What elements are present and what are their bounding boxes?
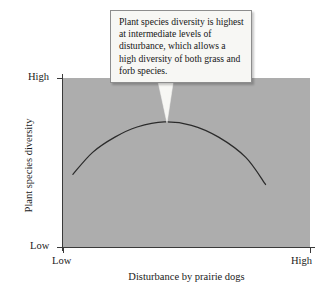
y-axis-line — [62, 74, 63, 251]
y-axis-label-high: High — [28, 71, 49, 83]
y-axis-title: Plant species diversity — [23, 86, 34, 246]
y-axis-tick-high — [57, 78, 63, 79]
x-axis-tick-high — [310, 247, 311, 253]
x-axis-label-high: High — [291, 255, 312, 267]
x-axis-label-low: Low — [52, 255, 71, 267]
x-axis-tick-low — [63, 247, 64, 253]
annotation-callout: Plant species diversity is highest at in… — [110, 10, 252, 83]
annotation-callout-text: Plant species diversity is highest at in… — [119, 16, 244, 77]
figure-container: High Low Low High Plant species diversit… — [0, 0, 328, 295]
x-axis-title: Disturbance by prairie dogs — [63, 271, 310, 282]
x-axis-line — [57, 247, 315, 248]
plot-area — [63, 78, 310, 247]
